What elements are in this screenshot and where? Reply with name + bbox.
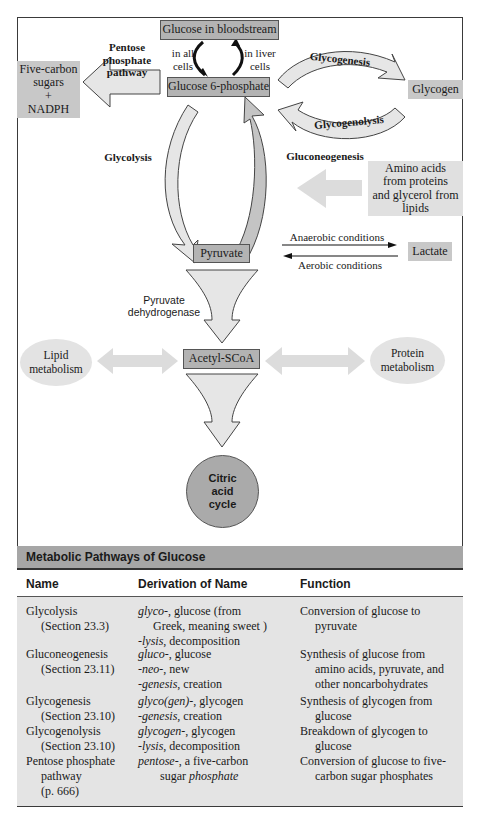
- node-acetyl-scoa: Acetyl-SCoA: [183, 349, 260, 369]
- fn-line: Conversion of glucose to: [300, 604, 420, 619]
- pdh-line-1: Pyruvate: [124, 294, 204, 306]
- row-section: (Section 23.10): [26, 709, 115, 724]
- node-five-carbon-sugars: Five-carbon sugars + NADPH: [17, 61, 80, 118]
- col-header-function: Function: [300, 577, 351, 591]
- node-glucose-6-phosphate: Glucose 6-phosphate: [167, 77, 270, 97]
- row-name: Glycogenolysis: [26, 724, 101, 738]
- citric-line-1: Citric: [208, 472, 236, 485]
- node-glycogen: Glycogen: [408, 80, 463, 99]
- row-section: pathway: [26, 769, 115, 784]
- in-liver-line-1: in liver: [240, 47, 280, 60]
- citric-line-2: acid: [211, 485, 233, 498]
- in-all-line-2: cells: [168, 60, 198, 73]
- amino-line-2: from proteins: [383, 175, 448, 188]
- prefix: -lysis: [138, 739, 163, 753]
- gluconeogenesis-arrow: [232, 97, 266, 262]
- label-gluconeogenesis: Gluconeogenesis: [280, 150, 370, 163]
- fn-line: glucose: [300, 709, 432, 724]
- amino-line-4: lipids: [402, 202, 429, 215]
- amino-acids-arrow: [297, 169, 362, 208]
- row-glycogenesis-derivation: glyco(gen)-, glycogen -genesis, creation: [138, 694, 243, 724]
- lipid-line-1: Lipid: [44, 349, 69, 362]
- node-amino-acids: Amino acids from proteins and glycerol f…: [368, 161, 463, 216]
- row-gluconeogenesis-name: Gluconeogenesis (Section 23.11): [26, 647, 115, 677]
- label-aerobic: Aerobic conditions: [290, 259, 390, 272]
- node-citric-acid-cycle: Citric acid cycle: [186, 455, 259, 528]
- row-gluconeogenesis-function: Synthesis of glucose from amino acids, p…: [300, 647, 444, 692]
- text: , glycogen: [185, 724, 235, 738]
- amino-line-3: and glycerol from: [373, 189, 459, 202]
- prefix: -lysis: [138, 634, 163, 648]
- text: , a five-carbon: [179, 754, 249, 768]
- fn-line: carbon sugar phosphates: [300, 769, 446, 784]
- prefix: -neo-: [138, 662, 163, 676]
- suffix: phosphate: [189, 769, 238, 783]
- prefix: glycogen-: [138, 724, 185, 738]
- citric-line-3: cycle: [209, 498, 237, 511]
- row-name: Glycolysis: [26, 604, 77, 618]
- row-section: (Section 23.3): [26, 619, 109, 634]
- prefix: glyco-: [138, 604, 168, 618]
- node-lipid-metabolism: Lipid metabolism: [20, 339, 92, 386]
- row-glycolysis-derivation: glyco-, glucose (from Greek, meaning swe…: [138, 604, 267, 649]
- node-pyruvate: Pyruvate: [193, 244, 250, 263]
- glycolysis-arrow: [165, 105, 198, 263]
- fn-line: amino acids, pyruvate, and: [300, 662, 444, 677]
- label-in-all-cells: in all cells: [168, 47, 198, 72]
- row-name: Glycogenesis: [26, 694, 91, 708]
- col-header-name: Name: [26, 577, 59, 591]
- text: , glycogen: [193, 694, 243, 708]
- label-glycolysis: Glycolysis: [100, 151, 156, 164]
- text: , creation: [177, 709, 222, 723]
- row-glycogenolysis-derivation: glycogen-, glycogen -lysis, decompositio…: [138, 724, 240, 754]
- in-all-line-1: in all: [168, 47, 198, 60]
- row-pentose-derivation: pentose-, a five-carbon sugar phosphate: [138, 754, 248, 784]
- row-pentose-function: Conversion of glucose to five- carbon su…: [300, 754, 446, 784]
- protein-line-1: Protein: [391, 347, 424, 360]
- fn-line: Breakdown of glycogen to: [300, 724, 428, 739]
- row-glycogenesis-function: Synthesis of glycogen from glucose: [300, 694, 432, 724]
- in-liver-line-2: cells: [240, 60, 280, 73]
- row-name: Pentose phosphate: [26, 754, 115, 768]
- text: , glucose (from: [168, 604, 241, 618]
- text: , decomposition: [163, 739, 240, 753]
- protein-line-2: metabolism: [381, 361, 435, 374]
- node-glucose-bloodstream: Glucose in bloodstream: [160, 20, 279, 40]
- prefix: pentose-: [138, 754, 179, 768]
- text: , glucose: [169, 647, 212, 661]
- row-glycogenesis-name: Glycogenesis (Section 23.10): [26, 694, 115, 724]
- fn-line: other noncarbohydrates: [300, 677, 444, 692]
- text: , new: [163, 662, 189, 676]
- fn-line: Synthesis of glycogen from: [300, 694, 432, 709]
- pentose-line-1: Pentose: [100, 41, 154, 54]
- node-lactate: Lactate: [408, 242, 452, 261]
- row-glycolysis-function: Conversion of glucose to pyruvate: [300, 604, 420, 634]
- table-column-headers: Name Derivation of Name Function: [17, 570, 463, 597]
- row-section: (Section 23.11): [26, 662, 115, 677]
- row-glycogenolysis-name: Glycogenolysis (Section 23.10): [26, 724, 115, 754]
- label-pentose-pathway: Pentose phosphate pathway: [100, 41, 154, 79]
- text: Greek, meaning sweet ): [153, 619, 267, 633]
- prefix: -genesis: [138, 677, 177, 691]
- prefix: -genesis: [138, 709, 177, 723]
- col-header-derivation: Derivation of Name: [138, 577, 247, 591]
- row-section-page: (p. 666): [26, 784, 115, 799]
- text: , decomposition: [163, 634, 240, 648]
- label-in-liver-cells: in liver cells: [240, 47, 280, 72]
- five-carbon-line-3: +: [45, 90, 52, 103]
- fn-line: glucose: [300, 739, 428, 754]
- prefix: gluco-: [138, 647, 169, 661]
- label-pyruvate-dehydrogenase: Pyruvate dehydrogenase: [124, 294, 204, 318]
- acetyl-to-citric-arrow: [186, 374, 258, 447]
- label-anaerobic: Anaerobic conditions: [284, 231, 390, 244]
- lipid-acetyl-double-arrow: [97, 348, 178, 374]
- five-carbon-line-4: NADPH: [28, 103, 69, 116]
- fn-line: Conversion of glucose to five-: [300, 754, 446, 769]
- pentose-line-3: pathway: [100, 66, 154, 79]
- text: sugar: [160, 769, 189, 783]
- text: , creation: [177, 677, 222, 691]
- row-name: Gluconeogenesis: [26, 647, 108, 661]
- prefix: glyco(gen)-: [138, 694, 193, 708]
- fn-line: Synthesis of glucose from: [300, 647, 444, 662]
- lipid-line-2: metabolism: [29, 363, 83, 376]
